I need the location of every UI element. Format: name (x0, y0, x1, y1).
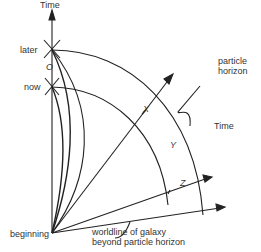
beginning-label: beginning (10, 229, 49, 239)
particle-horizon-label: particle horizon (218, 56, 248, 76)
particle-horizon-pointer (178, 86, 200, 126)
past-lightcone-later-2 (52, 50, 84, 233)
time-axis-label: Time (40, 0, 60, 10)
now-label: now (24, 82, 41, 92)
galaxy-y-label: Y (170, 140, 176, 150)
later-label: later (20, 45, 38, 55)
worldline-x-arrow-icon (164, 74, 173, 84)
worldline-label: worldline of galaxy beyond particle hori… (92, 227, 185, 247)
observer-label: O (46, 62, 53, 72)
galaxy-x-label: X (143, 104, 149, 114)
worldline-y-arrow-icon (203, 175, 212, 182)
time-diagonal-label: Time (214, 121, 234, 131)
time-axis-arrow-icon (49, 10, 55, 20)
past-lightcone-later (52, 50, 70, 233)
galaxy-z-label: Z (180, 178, 186, 188)
worldline-z-arrow-icon (216, 204, 225, 211)
past-lightcone-now (52, 87, 63, 233)
